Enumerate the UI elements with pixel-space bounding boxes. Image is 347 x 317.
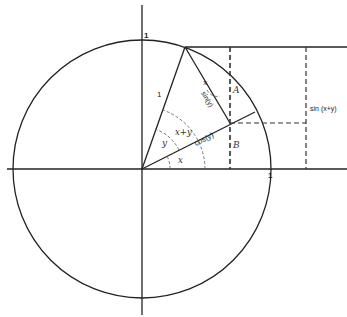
label-angle-x-plus-y: x+y [175, 127, 192, 137]
label-right-one: 1 [268, 171, 273, 180]
label-sin-x-plus-y: sin (x+y) [310, 105, 337, 113]
label-angle-x-upper: x [203, 78, 208, 87]
label-angle-x-lower: x [178, 155, 183, 165]
label-cos-y: cos(y) [193, 130, 216, 148]
label-angle-y: y [161, 138, 168, 148]
arc-x [167, 156, 170, 169]
label-point-A: A [232, 85, 240, 95]
label-point-B: B [232, 140, 240, 150]
label-top-one: 1 [144, 31, 149, 40]
unit-circle-diagram: 1 1 1 sin(y) cos(y) x y x+y x A B sin (x… [0, 0, 347, 317]
label-hypotenuse-one: 1 [157, 90, 162, 99]
